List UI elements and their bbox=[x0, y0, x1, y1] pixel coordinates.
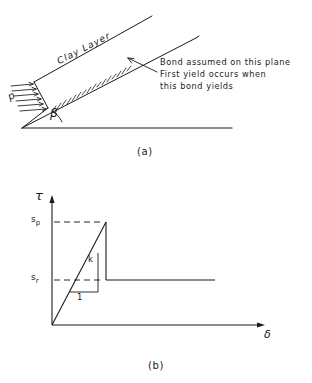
bond-plane-annotation: Bond assumed on this plane First yield o… bbox=[160, 56, 291, 93]
y-axis-arrowhead bbox=[49, 195, 54, 203]
slope-run-label: 1 bbox=[77, 292, 82, 302]
caption-panel-a: (a) bbox=[137, 146, 153, 157]
layer-lower-boundary-ext bbox=[196, 36, 199, 38]
beta-angle-label: β bbox=[50, 106, 58, 120]
residual-strength-subscript: r bbox=[36, 277, 39, 285]
x-axis-label: δ bbox=[264, 328, 271, 341]
layer-toe-edge bbox=[22, 108, 48, 128]
residual-strength-label: sr bbox=[31, 272, 39, 285]
pressure-arrows bbox=[11, 82, 46, 111]
caption-panel-b: (b) bbox=[148, 360, 164, 371]
y-axis-label: τ bbox=[35, 188, 43, 203]
peak-strength-label: sp bbox=[31, 214, 40, 227]
slope-triangle bbox=[70, 253, 98, 292]
panel-b-drawing bbox=[49, 195, 265, 328]
figure-container: Clay Layer p β Bond assumed on this plan… bbox=[0, 0, 312, 383]
x-axis-arrowhead bbox=[257, 322, 265, 327]
bond-plane-hatching bbox=[52, 66, 131, 112]
slope-k-label: k bbox=[88, 254, 93, 264]
peak-strength-subscript: p bbox=[36, 219, 40, 227]
